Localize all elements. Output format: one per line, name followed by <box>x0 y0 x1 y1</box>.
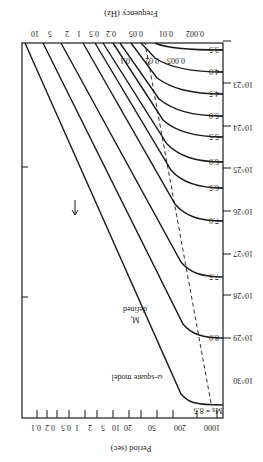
freq-tick: 10 <box>31 29 39 38</box>
inner-freq-label: 0.1 <box>120 56 130 65</box>
plot-frame <box>22 43 223 418</box>
moment-tick: 10^30 <box>233 376 253 385</box>
period-tick: 0.5 <box>61 423 71 432</box>
period-tick: 2 <box>88 423 92 432</box>
period-tick: 10 <box>112 423 120 432</box>
magnitude-label: 5.5 <box>209 132 219 141</box>
freq-tick: 2 <box>65 29 69 38</box>
period-axis-title: Period (sec) <box>110 444 151 454</box>
frequency-axis-title: Frequency (Hz) <box>104 9 158 19</box>
magnitude-label: 4.5 <box>209 89 219 98</box>
magnitude-label: 3.5 <box>209 45 219 54</box>
corner-frequency-dashed-line <box>145 43 211 403</box>
annotation-line2: defined <box>123 305 147 314</box>
moment-ticks <box>223 41 231 338</box>
moment-tick: 10^25 <box>233 165 253 174</box>
moment-tick: 10^29 <box>233 333 253 342</box>
period-tick: 0.2 <box>45 423 55 432</box>
labels: Frequency (Hz) Period (sec) 0.002 0.01 0… <box>31 9 253 454</box>
freq-tick: 0.05 <box>129 29 143 38</box>
magnitude-label: 6.5 <box>209 183 219 192</box>
magnitude-label: 4.0 <box>209 67 219 76</box>
period-tick: 50 <box>148 423 156 432</box>
freq-tick: 0.002 <box>186 29 204 38</box>
spectra-chart: Frequency (Hz) Period (sec) 0.002 0.01 0… <box>0 0 263 462</box>
period-tick: 0.1 <box>31 423 41 432</box>
freq-tick: 5 <box>48 29 52 38</box>
moment-tick: 10^27 <box>233 249 253 258</box>
period-ticks <box>37 410 217 418</box>
magnitude-label: 8.0 <box>209 333 219 342</box>
moment-tick: 10^28 <box>233 291 253 300</box>
spectral-curves <box>25 43 223 405</box>
inner-freq-label: 0.02 <box>145 56 159 65</box>
moment-tick: 10^24 <box>233 123 253 132</box>
moment-tick: 10^23 <box>233 80 253 89</box>
inner-freq-label: 0.005 <box>167 56 185 65</box>
period-tick: 20 <box>124 423 132 432</box>
annotation-line1: M, <box>130 315 139 324</box>
freq-tick: 0.5 <box>89 29 99 38</box>
moment-tick: 10^26 <box>233 207 253 216</box>
period-tick: 1000 <box>204 423 220 432</box>
period-tick: 1 <box>75 423 79 432</box>
freq-tick: 0.01 <box>159 29 173 38</box>
period-tick: 5 <box>101 423 105 432</box>
magnitude-label: 7.5 <box>209 272 219 281</box>
magnitude-label: Ms = 8.5 <box>194 406 223 415</box>
magnitude-label: 5.0 <box>209 111 219 120</box>
magnitude-label: 7.0 <box>209 216 219 225</box>
freq-tick: 1 <box>77 29 81 38</box>
freq-tick: 0.2 <box>106 29 116 38</box>
period-tick: 200 <box>174 423 186 432</box>
model-label: ω-square model <box>111 373 163 382</box>
magnitude-label: 6.0 <box>209 157 219 166</box>
